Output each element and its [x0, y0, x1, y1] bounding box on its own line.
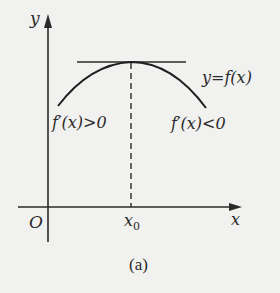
x-axis-label: x	[231, 210, 240, 229]
increasing-annotation: f′(x)>0	[51, 113, 107, 132]
figure-caption: (a)	[129, 255, 148, 274]
origin-label: O	[29, 212, 43, 232]
derivative-maximum-figure: y O x0 x y=f(x) f′(x)>0 f′(x)<0 (a)	[0, 0, 280, 293]
figure-canvas: y O x0 x y=f(x) f′(x)>0 f′(x)<0 (a)	[0, 0, 280, 293]
decreasing-annotation: f′(x)<0	[170, 114, 226, 133]
curve-f	[58, 62, 206, 108]
y-axis-arrow-icon	[44, 14, 52, 28]
x0-label: x0	[124, 211, 140, 233]
curve-label: y=f(x)	[201, 68, 252, 87]
y-axis-label: y	[29, 8, 40, 28]
